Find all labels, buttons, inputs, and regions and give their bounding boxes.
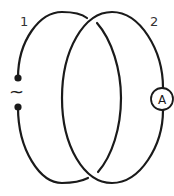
loop-2-lower-path bbox=[62, 98, 163, 183]
loop-1-inner-arc bbox=[97, 23, 121, 172]
loop-2-upper-path bbox=[62, 12, 163, 98]
loop-1-label: 1 bbox=[20, 14, 28, 29]
loop-2: A 2 bbox=[62, 12, 173, 183]
loop-1-bottom-arc bbox=[18, 107, 88, 183]
loop-2-label: 2 bbox=[150, 14, 158, 29]
ammeter-label: A bbox=[158, 93, 167, 107]
loop-1-top-arc bbox=[18, 12, 87, 78]
terminal-dot-lower bbox=[14, 103, 21, 110]
loop-1: ~ 1 bbox=[9, 12, 121, 183]
linked-loops-diagram: ~ 1 A 2 bbox=[0, 0, 174, 196]
ac-source-icon: ~ bbox=[9, 81, 24, 102]
